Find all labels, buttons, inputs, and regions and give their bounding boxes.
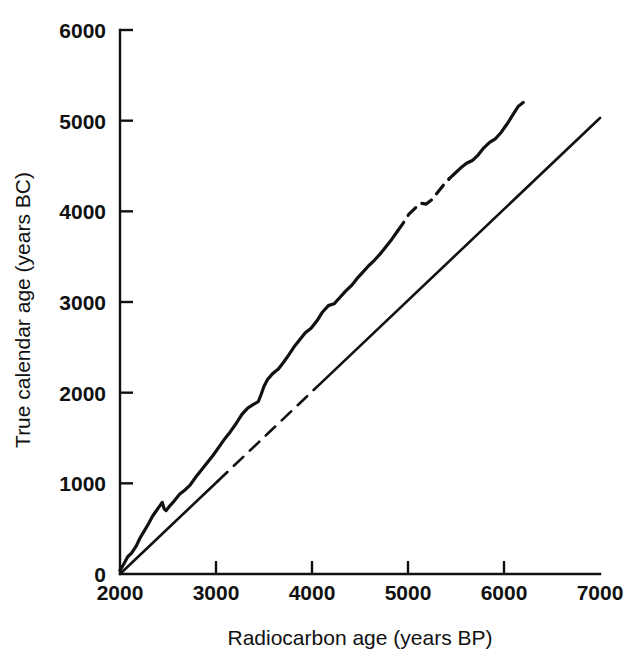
x-axis-title: Radiocarbon age (years BP) [228,626,493,649]
x-tick-label: 5000 [385,581,432,604]
data-series-group [120,103,600,574]
x-axis-tick-labels: 200030004000500060007000 [97,581,624,604]
chart-svg: 200030004000500060007000 010002000300040… [0,0,642,661]
reference-line-segment [120,481,218,574]
y-axis-ticks [120,30,133,483]
y-tick-label: 0 [94,563,106,586]
x-tick-label: 6000 [481,581,528,604]
y-tick-label: 5000 [59,110,106,133]
y-axis-tick-labels: 0100020003000400050006000 [59,19,106,586]
calibration-curve-figure: 200030004000500060007000 010002000300040… [0,0,642,661]
y-tick-label: 3000 [59,291,106,314]
y-tick-label: 4000 [59,200,106,223]
x-tick-label: 3000 [193,581,240,604]
calibration-curve-segment [397,179,449,232]
x-tick-label: 7000 [577,581,624,604]
y-tick-label: 2000 [59,382,106,405]
calibration-curve-segment [449,103,523,179]
x-tick-label: 4000 [289,581,336,604]
y-tick-label: 1000 [59,472,106,495]
reference-line-segment [218,386,318,481]
x-axis-ticks [216,561,504,574]
y-tick-label: 6000 [59,19,106,42]
reference-line-segment [318,118,600,386]
y-axis-title: True calendar age (years BC) [11,172,34,448]
axis-lines [120,30,600,574]
calibration-curve-segment [120,231,397,570]
